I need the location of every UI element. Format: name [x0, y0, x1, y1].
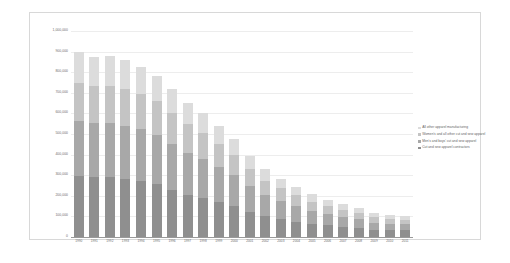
bar-segment	[167, 144, 177, 190]
bar-column[interactable]	[152, 76, 162, 237]
bar-segment	[136, 67, 146, 94]
x-axis-tick-label: 2010	[382, 240, 398, 243]
x-axis-tick-label: 1993	[117, 240, 133, 243]
bar-column[interactable]	[323, 200, 333, 237]
bar-column[interactable]	[89, 57, 99, 237]
legend-swatch-icon	[418, 140, 421, 143]
bar-column[interactable]	[229, 139, 239, 237]
x-axis-tick-label: 1990	[71, 240, 87, 243]
bar-segment	[152, 135, 162, 184]
x-axis-tick-label: 2001	[242, 240, 258, 243]
bar-column[interactable]	[136, 67, 146, 237]
bar-segment	[198, 113, 208, 133]
bar-segment	[323, 214, 333, 225]
legend-item-label: All other apparel manufacturing	[422, 126, 468, 130]
bar-segment	[136, 129, 146, 181]
bar-segment	[229, 206, 239, 237]
bar-column[interactable]	[183, 103, 193, 237]
y-axis-tick-label: 800,000	[55, 70, 68, 73]
bar-segment	[245, 212, 255, 237]
legend-item[interactable]: Cut and sew apparel contractors	[418, 146, 510, 150]
y-axis-tick-label: 1,000,000	[52, 29, 68, 32]
bar-segment	[214, 202, 224, 237]
bar-segment	[167, 113, 177, 144]
legend-item[interactable]: Men's and boys' cut and sew apparel	[418, 140, 510, 144]
y-axis-tick-label: 500,000	[55, 132, 68, 135]
legend-item[interactable]: Women's and all other cut and sew appare…	[418, 133, 510, 137]
bar-segment	[152, 101, 162, 135]
x-axis-tick-label: 1997	[180, 240, 196, 243]
bar-column[interactable]	[245, 156, 255, 237]
x-axis-line	[71, 237, 413, 238]
bar-segment	[291, 222, 301, 237]
bar-column[interactable]	[338, 204, 348, 237]
bar-segment	[74, 83, 84, 121]
bar-segment	[245, 169, 255, 186]
bar-segment	[183, 195, 193, 237]
bar-segment	[183, 153, 193, 195]
bar-segment	[214, 167, 224, 202]
bar-column[interactable]	[260, 169, 270, 237]
bar-segment	[260, 195, 270, 216]
bar-column[interactable]	[167, 89, 177, 237]
x-axis-tick-label: 2008	[351, 240, 367, 243]
bar-segment	[291, 195, 301, 206]
bar-segment	[385, 230, 395, 237]
x-axis-tick-label: 2003	[273, 240, 289, 243]
bar-segment	[198, 198, 208, 237]
x-axis-tick-label: 2011	[397, 240, 413, 243]
bar-segment	[307, 224, 317, 237]
x-axis-tick-label: 2000	[226, 240, 242, 243]
bar-segment	[260, 181, 270, 195]
bar-segment	[307, 194, 317, 201]
bar-column[interactable]	[198, 113, 208, 237]
y-axis-tick-label: 200,000	[55, 194, 68, 197]
y-axis-tick-label: 700,000	[55, 91, 68, 94]
bar-segment	[245, 186, 255, 212]
bar-column[interactable]	[74, 52, 84, 237]
legend-item-label: Cut and sew apparel contractors	[422, 146, 469, 150]
bar-column[interactable]	[214, 126, 224, 237]
bar-segment	[323, 225, 333, 237]
bar-column[interactable]	[105, 56, 115, 237]
bar-column[interactable]	[385, 215, 395, 237]
bar-segment	[338, 210, 348, 217]
bar-segment	[276, 219, 286, 237]
bar-segment	[198, 159, 208, 199]
x-axis-tick-label: 2007	[335, 240, 351, 243]
bar-segment	[369, 230, 379, 237]
bar-segment	[89, 86, 99, 123]
bar-column[interactable]	[291, 187, 301, 237]
bar-segment	[183, 103, 193, 125]
bar-column[interactable]	[354, 208, 364, 237]
bar-segment	[354, 228, 364, 237]
bar-segment	[152, 76, 162, 102]
legend-item[interactable]: All other apparel manufacturing	[418, 126, 510, 130]
bar-segment	[89, 57, 99, 86]
bar-segment	[120, 179, 130, 237]
bar-column[interactable]	[120, 60, 130, 237]
y-axis-tick-label: 100,000	[55, 215, 68, 218]
bar-segment	[105, 123, 115, 177]
y-axis-tick-label: 900,000	[55, 50, 68, 53]
bar-segment	[260, 216, 270, 237]
x-axis-tick-label: 1996	[164, 240, 180, 243]
bar-column[interactable]	[369, 213, 379, 237]
bar-segment	[229, 155, 239, 175]
bar-segment	[167, 190, 177, 237]
bar-column[interactable]	[307, 194, 317, 237]
bar-segment	[214, 126, 224, 144]
bar-segment	[260, 169, 270, 180]
legend-swatch-icon	[418, 133, 421, 136]
bar-column[interactable]	[276, 179, 286, 237]
bar-segment	[400, 230, 410, 237]
bar-segment	[120, 126, 130, 179]
bar-segment	[276, 179, 286, 189]
bar-column[interactable]	[400, 216, 410, 237]
y-axis-tick-label: 300,000	[55, 173, 68, 176]
bar-segment	[74, 121, 84, 177]
x-axis-tick-label: 1994	[133, 240, 149, 243]
bar-segment	[89, 123, 99, 177]
bar-segment	[120, 60, 130, 89]
bar-segment	[338, 217, 348, 227]
